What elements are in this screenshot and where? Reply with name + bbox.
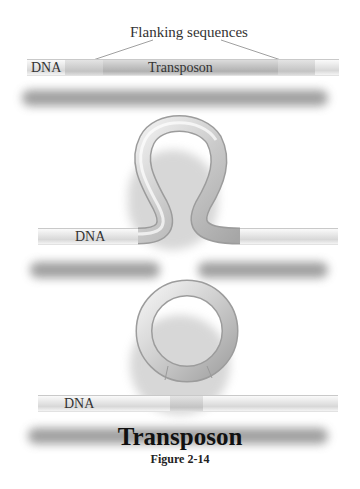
figure-title: Transposon [0,423,360,451]
dna-label: DNA [64,396,94,412]
dna-strand-left [38,395,170,412]
figure-caption: Figure 2-14 [0,452,360,467]
excised-transposon-circle [0,0,360,489]
dna-strand-right [203,395,338,412]
target-site-duplication [170,395,203,412]
